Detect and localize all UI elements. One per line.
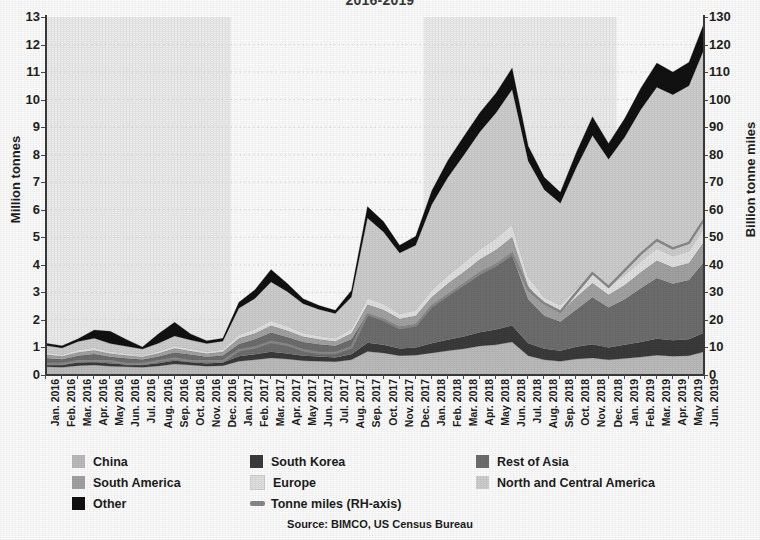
x-tick-label: Jun. 2018 [515, 379, 527, 427]
right-tick-label: 60 [709, 203, 723, 216]
x-tick-label: May 2018 [499, 379, 511, 426]
tick-mark [543, 374, 544, 379]
left-axis-title: Million tonnes [8, 105, 23, 255]
right-tick-label: 10 [709, 340, 723, 353]
tick-mark [366, 374, 367, 379]
right-tick-label: 100 [709, 93, 731, 106]
left-tick-label: 5 [33, 230, 40, 243]
tick-mark [286, 374, 287, 379]
x-tick-label: Aug. 2017 [354, 379, 366, 429]
source-note: Source: BIMCO, US Census Bureau [0, 518, 760, 530]
right-axis-line [703, 15, 705, 376]
tick-mark [109, 374, 110, 379]
x-tick-label: Nov. 2016 [210, 379, 222, 427]
left-tick-label: 8 [33, 148, 40, 161]
tick-mark [77, 374, 78, 379]
right-tick-label: 80 [709, 148, 723, 161]
left-axis-line [45, 15, 47, 376]
legend-color-swatch [72, 476, 85, 489]
x-tick-label: Dec. 2017 [419, 379, 431, 427]
x-tick-label: Apr. 2018 [483, 379, 495, 426]
tick-mark [559, 374, 560, 379]
right-tick-label: 130 [709, 10, 731, 23]
legend-item[interactable]: Rest of Asia [476, 452, 569, 471]
chart-legend: ChinaSouth KoreaRest of AsiaSouth Americ… [72, 452, 712, 514]
x-tick-label: Jan. 2018 [435, 379, 447, 426]
legend-item[interactable]: South Korea [250, 452, 345, 471]
legend-color-swatch [72, 497, 85, 510]
x-tick-label: Apr. 2019 [676, 379, 688, 426]
x-tick-label: Oct. 2018 [579, 379, 591, 426]
tick-mark [270, 374, 271, 379]
x-tick-label: Mar. 2019 [660, 379, 672, 426]
tick-mark [463, 374, 464, 379]
tick-mark [61, 374, 62, 379]
x-tick-label: Jun. 2019 [708, 379, 720, 427]
x-tick-label: Jan. 2017 [242, 379, 254, 426]
tick-mark [447, 374, 448, 379]
plot-area [46, 17, 705, 375]
tick-mark [399, 374, 400, 379]
right-tick-label: 120 [709, 38, 731, 51]
tick-mark [591, 374, 592, 379]
tick-mark [704, 374, 705, 379]
legend-item[interactable]: Other [72, 494, 126, 513]
legend-color-swatch [72, 455, 85, 468]
x-tick-label: Jul. 2018 [531, 379, 543, 423]
x-axis-ticks: Jan. 2016Feb. 2016Mar. 2016Apr. 2016May … [45, 379, 705, 449]
tick-mark [672, 374, 673, 379]
chart-title: 2016-2019 [0, 0, 760, 8]
left-tick-label: 11 [26, 65, 40, 78]
legend-label: Europe [273, 476, 316, 490]
right-tick-label: 50 [709, 230, 723, 243]
legend-item[interactable]: Tonne miles (RH-axis) [250, 494, 401, 513]
left-tick-label: 10 [26, 93, 40, 106]
tick-mark [656, 374, 657, 379]
x-tick-label: Apr. 2016 [97, 379, 109, 426]
x-tick-label: Nov. 2018 [595, 379, 607, 427]
tick-mark [93, 374, 94, 379]
x-tick-label: Aug. 2018 [547, 379, 559, 429]
legend-item[interactable]: Europe [250, 473, 316, 492]
right-tick-label: 40 [709, 258, 723, 271]
x-tick-label: Jan. 2016 [49, 379, 61, 426]
x-tick-label: Jan. 2019 [628, 379, 640, 426]
left-tick-label: 3 [33, 285, 40, 298]
x-tick-label: Jul. 2016 [145, 379, 157, 423]
tick-mark [608, 374, 609, 379]
right-tick-label: 30 [709, 285, 723, 298]
legend-label: South Korea [271, 455, 345, 469]
x-tick-label: Dec. 2018 [612, 379, 624, 427]
x-tick-label: Jun. 2016 [129, 379, 141, 427]
legend-label: Tonne miles (RH-axis) [271, 497, 401, 511]
tick-mark [624, 374, 625, 379]
legend-label: North and Central America [497, 476, 655, 490]
x-tick-label: Jun. 2017 [322, 379, 334, 427]
legend-color-swatch [476, 476, 489, 489]
left-tick-label: 7 [33, 175, 40, 188]
legend-label: China [93, 455, 128, 469]
legend-item[interactable]: China [72, 452, 128, 471]
legend-item[interactable]: South America [72, 473, 181, 492]
stacked-area-plot [46, 17, 705, 375]
tick-mark [141, 374, 142, 379]
chart-root: 2016-2019 131211109876543210 13012011010… [0, 0, 760, 540]
x-tick-label: Sep. 2016 [178, 379, 190, 427]
x-tick-label: Sep. 2018 [563, 379, 575, 427]
tick-mark [318, 374, 319, 379]
right-tick-label: 90 [709, 120, 723, 133]
tick-mark [527, 374, 528, 379]
x-tick-label: Dec. 2016 [226, 379, 238, 427]
legend-color-swatch [250, 455, 263, 468]
tick-mark [334, 374, 335, 379]
legend-item[interactable]: North and Central America [476, 473, 655, 492]
right-tick-label: 70 [709, 175, 723, 188]
x-tick-label: May 2019 [692, 379, 704, 426]
left-tick-label: 12 [26, 38, 40, 51]
right-tick-label: 110 [709, 65, 730, 78]
tick-mark [640, 374, 641, 379]
right-axis-title: Billion tonne miles [743, 105, 758, 255]
x-tick-label: Apr. 2017 [290, 379, 302, 426]
tick-mark [431, 374, 432, 379]
x-tick-label: Oct. 2017 [387, 379, 399, 426]
